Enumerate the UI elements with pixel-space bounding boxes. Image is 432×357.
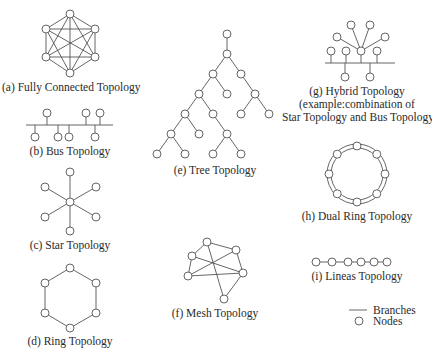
caption-dual-ring: (h) Dual Ring Topology (282, 210, 432, 223)
caption-tree: (e) Tree Topology (140, 164, 290, 177)
branch-line (192, 256, 243, 273)
caption-bus: (b) Bus Topology (2, 145, 138, 158)
node-circle-icon (153, 150, 161, 158)
linear-graph (312, 258, 391, 266)
node-circle-icon (92, 183, 100, 191)
node-circle-icon (66, 227, 74, 235)
node-circle-icon (366, 73, 374, 81)
node-circle-icon (41, 279, 49, 287)
node-circle-icon (223, 130, 231, 138)
node-circle-icon (237, 110, 245, 118)
bus-graph (26, 109, 113, 141)
caption-hybrid-line2: (example:combination of (282, 98, 432, 111)
caption-ring: (d) Ring Topology (2, 335, 138, 348)
topology-diagram (0, 0, 432, 357)
node-circle-icon (381, 170, 389, 178)
caption-hybrid: (g) Hybrid Topology (282, 85, 432, 98)
node-circle-icon (92, 279, 100, 287)
node-circle-icon (347, 21, 355, 29)
tree-graph (153, 30, 273, 158)
node-circle-icon (373, 150, 381, 158)
node-circle-icon (96, 109, 104, 117)
hybrid-graph (325, 21, 395, 81)
node-circle-icon (237, 70, 245, 78)
node-circle-icon (41, 183, 49, 191)
ring-graph (41, 264, 100, 332)
node-circle-icon (232, 246, 240, 254)
node-circle-icon (92, 309, 100, 317)
legend-nodes-label: Nodes (373, 315, 402, 328)
branch-line (224, 273, 243, 299)
node-circle-icon (333, 33, 341, 41)
caption-mesh: (f) Mesh Topology (140, 307, 290, 320)
caption-linear: (i) Lineas Topology (282, 270, 432, 283)
node-circle-icon (195, 130, 203, 138)
node-circle-icon (342, 47, 350, 55)
caption-fully-connected: (a) Fully Connected Topology (2, 81, 138, 94)
node-circle-icon (239, 269, 247, 277)
fully-connected-graph (42, 10, 99, 77)
legend (349, 310, 367, 325)
node-circle-icon (265, 110, 273, 118)
node-circle-icon (66, 168, 74, 176)
node-circle-icon (220, 295, 228, 303)
node-circle-icon (92, 213, 100, 221)
node-circle-icon (66, 264, 74, 272)
node-circle-icon (312, 258, 320, 266)
node-circle-icon (195, 90, 203, 98)
node-circle-icon (333, 150, 341, 158)
node-circle-icon (167, 130, 175, 138)
node-circle-icon (82, 109, 90, 117)
node-circle-icon (65, 133, 73, 141)
node-circle-icon (223, 30, 231, 38)
branch-line (70, 268, 96, 283)
node-circle-icon (373, 190, 381, 198)
star-graph (41, 168, 100, 235)
branch-line (70, 313, 96, 328)
node-circle-icon (188, 252, 196, 260)
node-circle-icon (366, 21, 374, 29)
node-circle-icon (91, 133, 99, 141)
branch-line (188, 273, 243, 276)
node-circle-icon (209, 70, 217, 78)
node-circle-icon (42, 53, 50, 61)
node-circle-icon (325, 170, 333, 178)
node-circle-icon (91, 53, 99, 61)
node-circle-icon (181, 150, 189, 158)
caption-star: (c) Star Topology (2, 239, 138, 252)
node-circle-icon (237, 150, 245, 158)
node-circle-icon (223, 50, 231, 58)
node-circle-icon (66, 198, 74, 206)
node-circle-icon (42, 25, 50, 33)
branch-line (70, 57, 95, 73)
branch-line (207, 242, 224, 299)
node-circle-icon (344, 258, 352, 266)
dual-ring-graph (325, 142, 389, 206)
node-circle-icon (66, 10, 74, 18)
node-circle-icon (66, 324, 74, 332)
branch-line (207, 242, 236, 250)
node-circle-icon (184, 272, 192, 280)
node-circle-icon (223, 90, 231, 98)
node-circle-icon (209, 150, 217, 158)
node-circle-icon (41, 213, 49, 221)
node-circle-icon (203, 238, 211, 246)
branch-line (70, 187, 96, 202)
node-circle-icon (43, 109, 51, 117)
node-circle-icon (327, 47, 335, 55)
node-circle-icon (381, 33, 389, 41)
node-circle-icon (66, 69, 74, 77)
node-circle-icon (357, 258, 365, 266)
node-circle-icon (181, 110, 189, 118)
node-circle-icon (54, 133, 62, 141)
node-circle-icon (370, 258, 378, 266)
node-circle-icon (353, 142, 361, 150)
node-circle-icon (209, 110, 217, 118)
node-circle-icon (357, 47, 365, 55)
node-circle-icon (383, 258, 391, 266)
node-circle-icon (31, 133, 39, 141)
caption-hybrid-line3: Star Topology and Bus Topology) (282, 111, 432, 124)
node-circle-icon (353, 198, 361, 206)
branch-line (70, 202, 96, 217)
node-circle-icon (333, 190, 341, 198)
